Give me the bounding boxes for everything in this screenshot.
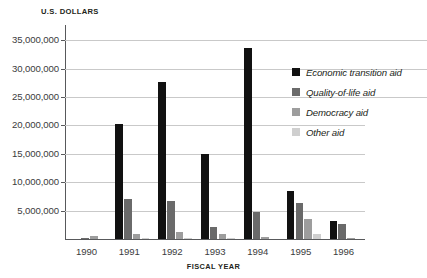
y-axis-title: U.S. DOLLARS — [41, 7, 99, 16]
bar-group — [244, 26, 278, 239]
bar — [296, 203, 304, 239]
bar-group — [73, 26, 107, 239]
y-axis-tick — [61, 211, 65, 212]
bar — [142, 238, 150, 239]
bar — [133, 234, 141, 239]
x-axis-tick-label: 1996 — [322, 246, 365, 257]
bar — [338, 224, 346, 239]
legend-item[interactable]: Other aid — [292, 122, 402, 142]
bar-chart-figure: U.S. DOLLARS 5,000,00010,000,00015,000,0… — [0, 0, 427, 278]
bar — [158, 82, 166, 239]
bar — [227, 238, 235, 239]
x-axis-tick-label: 1991 — [108, 246, 151, 257]
bar-group — [115, 26, 149, 239]
bar — [176, 232, 184, 239]
legend-swatch-icon — [292, 128, 300, 136]
legend-item-label: Quality-of-life aid — [306, 87, 375, 98]
bar — [244, 48, 252, 239]
bar — [347, 238, 355, 239]
y-axis-tick-label: 25,000,000 — [12, 91, 59, 102]
y-axis-tick-label: 5,000,000 — [17, 205, 59, 216]
x-axis-title: FISCAL YEAR — [0, 262, 427, 271]
y-axis-tick — [61, 40, 65, 41]
bar — [201, 154, 209, 239]
bar-group — [158, 26, 192, 239]
y-axis-tick — [61, 69, 65, 70]
y-axis-tick — [61, 125, 65, 126]
bar — [115, 124, 123, 239]
y-axis-tick — [61, 182, 65, 183]
y-axis-tick — [61, 97, 65, 98]
x-axis-tick-label: 1994 — [236, 246, 279, 257]
x-axis-line — [65, 239, 365, 240]
bar — [167, 201, 175, 239]
bar — [81, 238, 89, 239]
bar — [124, 199, 132, 239]
legend-item-label: Democracy aid — [306, 107, 368, 118]
y-axis-line — [65, 25, 66, 240]
x-axis-tick-label: 1992 — [151, 246, 194, 257]
y-axis-tick-label: 20,000,000 — [12, 119, 59, 130]
y-axis-tick-label: 15,000,000 — [12, 148, 59, 159]
bar — [330, 221, 338, 239]
bar — [261, 237, 269, 239]
legend-swatch-icon — [292, 88, 300, 96]
x-axis-tick-label: 1993 — [194, 246, 237, 257]
legend-swatch-icon — [292, 108, 300, 116]
bar-group — [201, 26, 235, 239]
legend-item[interactable]: Quality-of-life aid — [292, 82, 402, 102]
bar — [184, 238, 192, 239]
bar — [287, 191, 295, 239]
x-axis-tick-label: 1990 — [65, 246, 108, 257]
y-axis-tick-label: 30,000,000 — [12, 63, 59, 74]
legend-item-label: Other aid — [306, 127, 344, 138]
bar — [90, 236, 98, 239]
bar — [304, 219, 312, 239]
bar — [253, 212, 261, 239]
bar — [210, 227, 218, 239]
chart-legend: Economic transition aidQuality-of-life a… — [292, 62, 402, 142]
y-axis-tick-label: 10,000,000 — [12, 176, 59, 187]
legend-swatch-icon — [292, 68, 300, 76]
legend-item[interactable]: Economic transition aid — [292, 62, 402, 82]
bar — [219, 234, 227, 239]
legend-item-label: Economic transition aid — [306, 67, 402, 78]
x-axis-tick-label: 1995 — [279, 246, 322, 257]
legend-item[interactable]: Democracy aid — [292, 102, 402, 122]
bar — [313, 234, 321, 239]
y-axis-tick — [61, 154, 65, 155]
y-axis-tick-label: 35,000,000 — [12, 34, 59, 45]
